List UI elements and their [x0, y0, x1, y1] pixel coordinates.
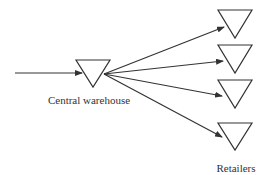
retailer-4-triangle-icon [218, 123, 252, 150]
distribution-arrows [104, 27, 224, 137]
central-warehouse-label: Central warehouse [48, 94, 130, 106]
retailer-nodes [218, 10, 252, 150]
retailers-label: Retailers [216, 162, 255, 174]
retailer-1-triangle-icon [218, 10, 252, 38]
distribution-diagram: Central warehouse Retailers [0, 0, 265, 175]
retailer-2-triangle-icon [218, 45, 252, 73]
arrow-to-retailer-3 [104, 74, 222, 96]
retailer-3-triangle-icon [218, 80, 252, 108]
